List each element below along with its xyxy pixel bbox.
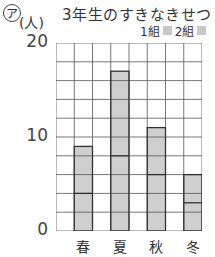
y-tick-0: 0 <box>18 219 48 239</box>
y-axis-unit: (人) <box>19 12 44 32</box>
legend-swatch-class1 <box>163 26 172 35</box>
legend-label-class2: 2組 <box>175 22 195 39</box>
legend-label-class1: 1組 <box>140 22 160 39</box>
x-label-1: 夏 <box>110 236 130 256</box>
x-label-0: 春 <box>73 236 93 256</box>
y-tick-20: 20 <box>18 31 48 51</box>
bar-0 <box>74 146 92 231</box>
chart-title: 3年生のすきなきせつ <box>62 3 212 24</box>
plot-area <box>56 43 202 231</box>
y-tick-10: 10 <box>18 125 48 145</box>
x-label-3: 冬 <box>183 236 203 256</box>
legend-swatch-class2 <box>197 26 206 35</box>
bar-1 <box>111 71 129 231</box>
legend: 1組 2組 <box>140 22 208 39</box>
x-label-2: 秋 <box>146 236 166 256</box>
bar-2 <box>147 128 165 231</box>
